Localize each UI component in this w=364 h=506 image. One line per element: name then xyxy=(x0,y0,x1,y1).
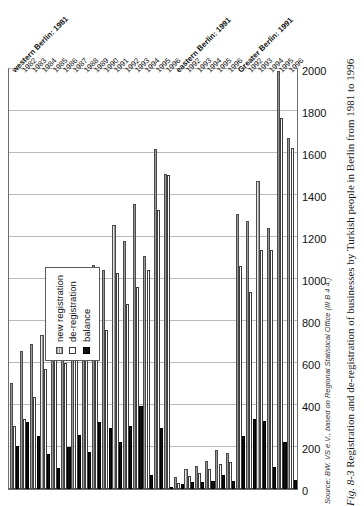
legend-swatch-de-registration xyxy=(69,347,76,354)
bar-group xyxy=(204,69,214,489)
chart-plot-area: new registration de-registration balance xyxy=(8,68,298,490)
bar-group xyxy=(246,69,256,489)
tick-label-2000: 2000 xyxy=(302,65,326,77)
bar-group xyxy=(256,69,266,489)
tick-label-1600: 1600 xyxy=(302,149,326,161)
bar-group xyxy=(266,69,276,489)
bar-group xyxy=(215,69,225,489)
tick-label-600: 600 xyxy=(302,359,320,371)
bar-dereg xyxy=(291,148,294,489)
figure-caption-text: Registration and de-registration of busi… xyxy=(344,59,356,468)
legend-label-de-registration: de-registration xyxy=(67,281,78,342)
tick-label-400: 400 xyxy=(302,401,320,413)
bar-group xyxy=(132,69,142,489)
bar-dereg xyxy=(167,175,170,489)
legend-swatch-balance xyxy=(83,347,90,354)
chart-legend: new registration de-registration balance xyxy=(45,267,100,361)
legend-label-new-registration: new registration xyxy=(54,275,65,342)
bar-group xyxy=(287,69,297,489)
legend-item-de-registration: de-registration xyxy=(67,275,78,354)
bar-group xyxy=(276,69,286,489)
legend-item-balance: balance xyxy=(81,275,92,354)
bar-group xyxy=(9,69,19,489)
tick-label-1200: 1200 xyxy=(302,233,326,245)
tick-label-0: 0 xyxy=(302,485,308,497)
tick-label-800: 800 xyxy=(302,317,320,329)
bar-group xyxy=(184,69,194,489)
tick-label-1400: 1400 xyxy=(302,191,326,203)
bar-group xyxy=(194,69,204,489)
legend-item-new-registration: new registration xyxy=(54,275,65,354)
bar-group xyxy=(225,69,235,489)
figure-caption: Fig. 8-3 Registration and de-registratio… xyxy=(344,59,356,506)
figure-page: new registration de-registration balance… xyxy=(0,0,364,506)
figure-number: Fig. 8-3 xyxy=(344,471,356,506)
rotated-figure-canvas: new registration de-registration balance… xyxy=(0,0,364,506)
bar-group xyxy=(143,69,153,489)
bar-dereg xyxy=(280,118,283,489)
bar-group xyxy=(112,69,122,489)
tick-label-200: 200 xyxy=(302,443,320,455)
bar-group xyxy=(174,69,184,489)
bar-dereg xyxy=(147,270,150,489)
source-note: Source: BW. VS e.V., based on Regional S… xyxy=(322,278,334,504)
bar-group xyxy=(153,69,163,489)
bar-group xyxy=(122,69,132,489)
bar-group xyxy=(19,69,29,489)
bar-group xyxy=(30,69,40,489)
bar-group xyxy=(163,69,173,489)
legend-label-balance: balance xyxy=(81,309,92,342)
tick-label-1800: 1800 xyxy=(302,107,326,119)
bar-group xyxy=(102,69,112,489)
bar-dereg xyxy=(270,250,273,489)
bar-group xyxy=(235,69,245,489)
bar-balance xyxy=(294,480,297,489)
legend-swatch-new-registration xyxy=(56,347,63,354)
